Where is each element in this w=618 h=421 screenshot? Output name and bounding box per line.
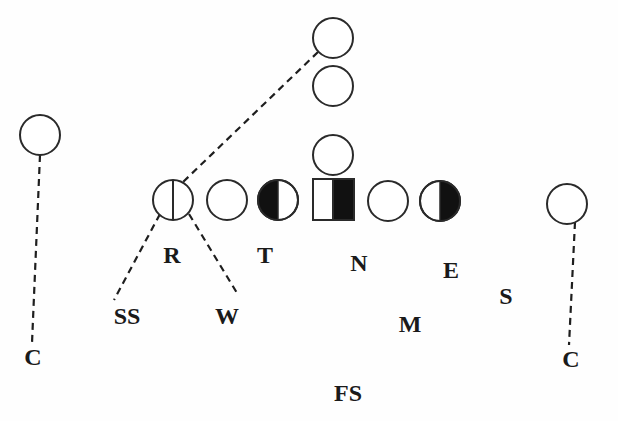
route-r-to-ss: [114, 214, 160, 300]
label-m: M: [399, 311, 422, 337]
routes: [32, 52, 575, 345]
back-deep-circle: [313, 18, 353, 58]
label-t: T: [257, 242, 273, 268]
play-diagram: R T N E S SS W M C C FS: [0, 0, 618, 421]
label-c-right: C: [562, 346, 579, 372]
center-half-filled-square: [313, 179, 354, 220]
label-e: E: [443, 257, 459, 283]
label-s: S: [499, 283, 512, 309]
quarterback-circle: [313, 135, 353, 175]
route-wr-left-to-c: [32, 155, 40, 343]
line-2-circle: [207, 180, 247, 220]
route-wr-right-to-c: [569, 222, 575, 345]
formation-svg: R T N E S SS W M C C FS: [0, 0, 618, 421]
label-fs: FS: [334, 380, 362, 406]
line-6-right-filled-circle: [420, 181, 460, 221]
route-back-to-r: [182, 52, 318, 183]
defense-labels: R T N E S SS W M C C FS: [24, 242, 579, 406]
wr-right-circle: [547, 184, 587, 224]
label-r: R: [163, 242, 181, 268]
label-n: N: [350, 250, 368, 276]
back-mid-circle: [313, 66, 353, 106]
route-r-to-w: [189, 214, 237, 293]
label-w: W: [215, 303, 239, 329]
wr-left-circle: [20, 115, 60, 155]
line-5-circle: [368, 181, 408, 221]
line-1-split-circle: [153, 180, 193, 220]
line-3-left-filled-circle: [258, 180, 298, 220]
label-c-left: C: [24, 344, 41, 370]
label-ss: SS: [114, 303, 141, 329]
